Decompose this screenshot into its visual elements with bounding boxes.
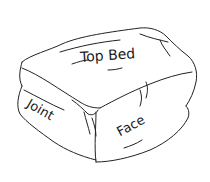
stone-block-drawing: [0, 0, 210, 182]
